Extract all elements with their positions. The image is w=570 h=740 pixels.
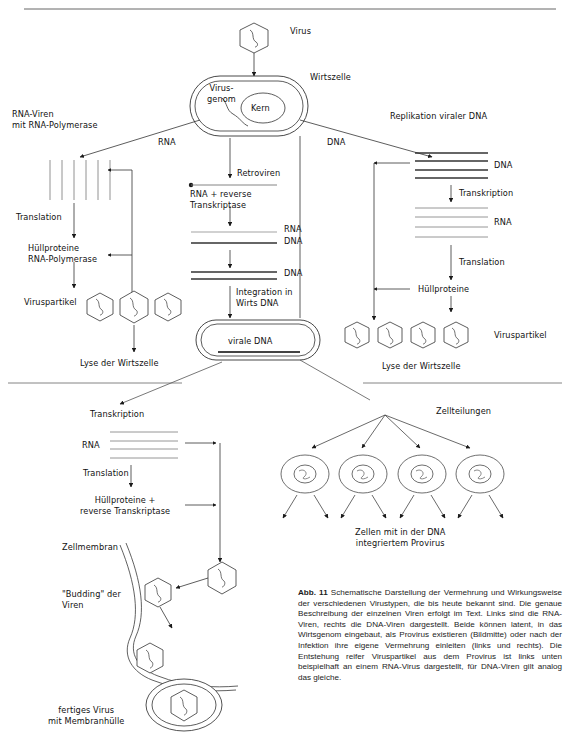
label-dna-mid-2: DNA [284, 268, 302, 279]
virus-hexagon-top [240, 23, 268, 53]
label-translation-left: Translation [16, 212, 62, 223]
label-dna-replication: Replikation viraler DNA [390, 111, 487, 122]
arrow-cell-to-dnareplication [300, 120, 432, 157]
finished-virus [146, 679, 222, 731]
label-virus: Virus [290, 26, 311, 37]
label-transcription-bottom: Transkription [90, 409, 144, 420]
label-lysis-right: Lyse der Wirtszelle [382, 361, 461, 372]
label-rna-branch: RNA [158, 137, 176, 148]
rna-dna-hybrid [191, 232, 277, 243]
arrow-cell-to-rnaviruses [80, 120, 200, 157]
budding-virus [145, 578, 171, 607]
feedback-loop-right [374, 163, 410, 320]
label-retroviruses: Retroviren [237, 168, 280, 179]
label-cell-membrane: Zellmembran [62, 542, 118, 553]
label-budding: "Budding" der Viren [62, 589, 121, 610]
label-viral-dna: virale DNA [228, 336, 272, 347]
label-envelope-proteins-left: Hüllproteine RNA-Polymerase [28, 243, 97, 264]
arrow-budding-progress [160, 607, 172, 628]
label-rna-bottom: RNA [82, 440, 100, 451]
division-arrows-upper [312, 415, 470, 448]
dna-strands-right [415, 153, 488, 178]
label-rna-right: RNA [494, 217, 512, 228]
figure-caption: Abb. 11 Schematische Darstellung der Ver… [298, 588, 562, 683]
virus-particle-bottom-right [208, 562, 236, 594]
label-provirus-cells: Zellen mit in der DNA integriertem Provi… [355, 527, 446, 548]
label-envelope-proteins-right: Hüllproteine [418, 284, 469, 295]
label-cell-divisions: Zellteilungen [436, 406, 491, 417]
provirus-cells-row [281, 455, 504, 493]
label-rna-mid: RNA [284, 224, 302, 235]
figure-number: Abb. 11 [298, 588, 328, 597]
label-envelope-proteins-bottom: Hüllproteine + reverse Transkriptase [80, 495, 170, 516]
label-translation-right: Translation [459, 257, 505, 268]
label-rna-viruses: RNA-Viren mit RNA-Polymerase [12, 109, 98, 130]
feedback-loop-bottom [185, 443, 220, 562]
label-integration: Integration in Wirts DNA [236, 287, 293, 308]
virus-particles-right [345, 322, 468, 348]
label-dna-branch: DNA [327, 137, 345, 148]
rna-strands-right [415, 208, 488, 237]
division-arrows-lower [283, 495, 503, 518]
figure-caption-text: Schematische Darstellung der Vermehrung … [298, 588, 562, 682]
label-nucleus: Kern [251, 103, 270, 114]
label-virus-genome: Virus- genom [207, 83, 236, 104]
label-virus-particles-right: Viruspartikel [494, 330, 547, 341]
virus-particles-left [87, 291, 181, 323]
label-lysis-left: Lyse der Wirtszelle [80, 358, 159, 369]
label-host-cell: Wirtszelle [310, 72, 351, 83]
label-transcription-right: Transkription [459, 188, 513, 199]
label-translation-bottom: Translation [83, 468, 129, 479]
line-provirus-to-divisions [300, 360, 370, 400]
budding-virus-enveloped [137, 643, 163, 673]
feedback-loop-left [108, 170, 132, 300]
label-dna-right: DNA [494, 160, 512, 171]
double-stranded-dna-mid [191, 272, 277, 279]
label-virus-particles-left: Viruspartikel [24, 297, 77, 308]
rna-strands-left [50, 160, 110, 200]
label-dna-mid-1: DNA [284, 236, 302, 247]
rna-strands-bottom [110, 432, 178, 458]
label-finished-virus: fertiges Virus mit Membranhülle [48, 705, 124, 726]
label-rna-plus-rt: RNA + reverse Transkriptase [190, 189, 252, 210]
arrow-virus-to-membrane [176, 578, 208, 588]
